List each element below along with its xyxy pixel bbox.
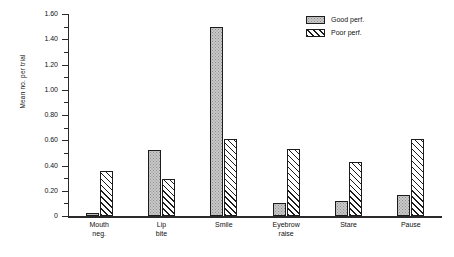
bar-good	[335, 201, 348, 216]
bar-good	[210, 27, 223, 216]
bar-poor	[349, 162, 362, 216]
y-tick-label: 0.40	[26, 162, 58, 169]
bar-good	[273, 203, 286, 216]
bar-group	[148, 14, 175, 216]
bar-good	[148, 150, 161, 216]
bar-poor	[100, 171, 113, 216]
legend-item-poor: Poor perf.	[306, 27, 364, 38]
y-tick-label: 1.60	[26, 10, 58, 17]
bar-good	[86, 213, 99, 216]
x-category-label: Pause	[377, 221, 445, 230]
y-tick-label: 0.80	[26, 111, 58, 118]
y-axis-title: Mean no. per trial	[19, 22, 26, 142]
bar-poor	[411, 139, 424, 216]
legend-item-good: Good perf.	[306, 14, 364, 25]
stipple-swatch-icon	[306, 16, 325, 24]
y-tick-label: 1.40	[26, 35, 58, 42]
bar-poor	[287, 149, 300, 216]
y-tick-label: 0.60	[26, 136, 58, 143]
y-tick-label: 1.00	[26, 86, 58, 93]
bar-group	[210, 14, 237, 216]
x-axis-line	[68, 216, 442, 218]
x-category-label: Eyebrow raise	[252, 221, 320, 238]
x-category-label: Lip bite	[128, 221, 196, 238]
bar-group	[273, 14, 300, 216]
x-category-label: Stare	[315, 221, 383, 230]
chart-legend: Good perf. Poor perf.	[306, 14, 364, 40]
bar-group	[335, 14, 362, 216]
bar-poor	[224, 139, 237, 216]
bar-poor	[162, 179, 175, 216]
y-tick-label: 0	[26, 212, 58, 219]
legend-label-poor: Poor perf.	[331, 29, 362, 36]
bar-group	[397, 14, 424, 216]
y-tick-label: 0.20	[26, 187, 58, 194]
y-tick-major	[62, 216, 68, 217]
y-tick-label: 1.20	[26, 61, 58, 68]
x-category-label: Mouth neg.	[65, 221, 133, 238]
x-category-label: Smile	[190, 221, 258, 230]
legend-label-good: Good perf.	[331, 16, 364, 23]
bar-good	[397, 195, 410, 216]
bar-group	[86, 14, 113, 216]
plot-area	[68, 14, 442, 216]
bar-chart: Mean no. per trial 00.200.400.600.801.00…	[0, 0, 454, 257]
hatch-swatch-icon	[306, 29, 325, 37]
